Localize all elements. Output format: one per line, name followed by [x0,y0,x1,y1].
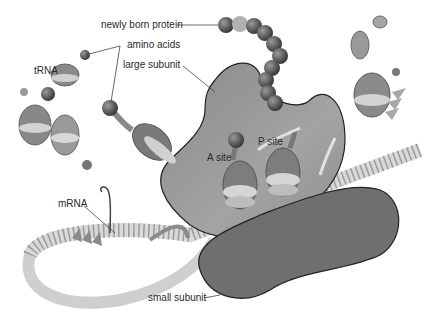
label-newly-born-protein: newly born protein [101,19,183,31]
label-small-subunit: small subunit [148,292,206,304]
incoming-trna [102,100,179,168]
label-amino-acids: amino acids [127,39,180,51]
label-a-site: A site [207,152,231,164]
a-site-amino-acid [228,132,244,148]
exiting-trna-cluster [351,16,406,120]
label-mrna: mRNA [58,198,87,210]
ribosome-diagram: newly born protein amino acids large sub… [0,0,428,319]
label-large-subunit: large subunit [123,59,180,71]
label-trna: tRNA [34,65,58,77]
label-p-site: P site [258,136,283,148]
